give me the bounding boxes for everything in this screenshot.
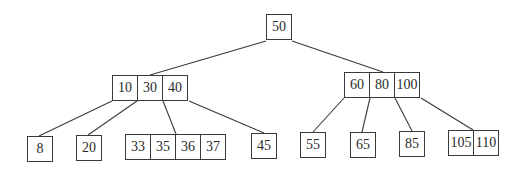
key-cell: 35 — [150, 134, 176, 160]
key-cell: 20 — [76, 135, 102, 161]
edge-l1-right-to-leaf-65 — [362, 98, 370, 132]
key-cell: 65 — [350, 132, 376, 158]
key-cell: 80 — [369, 72, 395, 98]
leaf-node: 85 — [399, 131, 425, 157]
key-cell: 33 — [125, 134, 151, 160]
key-cell: 37 — [200, 134, 226, 160]
edge-l1-left-to-leaf-33-37 — [163, 101, 176, 134]
key-cell: 85 — [399, 131, 425, 157]
internal-node-left: 10 30 40 — [112, 75, 188, 101]
edge-l1-right-to-leaf-55 — [313, 98, 344, 132]
leaf-node: 105 110 — [448, 130, 499, 156]
internal-node-right: 60 80 100 — [344, 72, 420, 98]
key-cell: 10 — [112, 75, 138, 101]
edge-l1-left-to-leaf-8 — [39, 101, 112, 136]
key-cell: 55 — [300, 132, 326, 158]
root-node: 50 — [266, 14, 292, 40]
key-cell: 100 — [394, 72, 420, 98]
key-cell: 40 — [162, 75, 188, 101]
edge-l1-left-to-leaf-20 — [88, 101, 137, 135]
key-cell: 45 — [251, 133, 277, 159]
leaf-node: 55 — [300, 132, 326, 158]
key-cell: 50 — [266, 14, 292, 40]
key-cell: 110 — [473, 130, 499, 156]
edge-root-to-l1-right — [292, 41, 383, 72]
leaf-node: 65 — [350, 132, 376, 158]
edge-l1-right-to-leaf-85 — [395, 98, 412, 131]
leaf-node: 33 35 36 37 — [125, 134, 226, 160]
b-tree-diagram: 50 10 30 40 60 80 100 8 20 33 35 36 37 4… — [0, 0, 524, 170]
key-cell: 105 — [448, 130, 474, 156]
edge-l1-left-to-leaf-45 — [189, 101, 264, 133]
edge-l1-right-to-leaf-105-110 — [421, 98, 473, 130]
key-cell: 30 — [137, 75, 163, 101]
edge-root-to-l1-left — [150, 41, 266, 75]
key-cell: 8 — [27, 136, 53, 162]
leaf-node: 45 — [251, 133, 277, 159]
leaf-node: 8 — [27, 136, 53, 162]
key-cell: 60 — [344, 72, 370, 98]
leaf-node: 20 — [76, 135, 102, 161]
key-cell: 36 — [175, 134, 201, 160]
